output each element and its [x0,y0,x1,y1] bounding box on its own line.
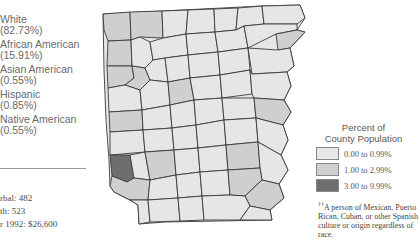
legend-swatch [316,179,339,192]
footnote-text: A person of Mexican, Puerto Rican, Cuban… [318,203,418,239]
legend-title-line: County Population [307,133,420,144]
stat-line: r 1992: $26,600 [0,218,57,231]
county [226,142,260,170]
race-pct: (0.85%) [0,100,100,111]
county [196,120,226,148]
county [142,105,172,130]
legend-label: 1.00 to 2.99% [344,165,392,175]
legend-label: 0.00 to 0.99% [344,149,392,159]
county [248,48,294,74]
stat-line: th: 523 [0,205,57,218]
county-map [100,0,340,240]
county [188,52,220,78]
race-item-african-american: African American(15.91%) [0,39,100,61]
county [130,11,163,40]
stat-line: rbal: 482 [0,192,57,205]
legend-item-high: 3.00 to 9.99% [316,179,420,192]
legend-item-low: 0.00 to 0.99% [316,147,420,160]
county [143,128,174,152]
race-item-native-american: Native American(0.55%) [0,114,100,136]
county [190,75,222,100]
county [130,200,150,224]
county [103,12,131,41]
legend-swatch [316,163,339,176]
legend-title-line: Percent of [307,122,420,133]
county [107,40,132,66]
county [176,172,202,198]
race-pct: (15.91%) [0,50,100,61]
stats-list: rbal: 482 th: 523 r 1992: $26,600 [0,192,57,231]
county [198,145,228,172]
county [170,100,196,128]
county [172,125,198,150]
race-item-asian-american: Asian American(0.55%) [0,64,100,86]
county [108,85,142,112]
race-breakdown-list: White(82.73%) African American(15.91%) A… [0,14,100,139]
race-pct: (0.55%) [0,125,100,136]
county [200,170,230,196]
county [214,8,238,32]
county [165,55,190,82]
legend-label: 3.00 to 9.99% [344,181,392,191]
race-pct: (82.73%) [0,25,100,36]
county [186,32,218,55]
county [250,70,291,100]
county [162,10,188,38]
legend-title: Percent of County Population [307,122,420,144]
footnote: ††A person of Mexican, Puerto Rican, Cub… [318,200,420,239]
county [109,110,143,132]
county [186,9,215,34]
county [224,118,258,145]
map-legend: Percent of County Population 0.00 to 0.9… [307,122,420,192]
race-pct: (0.55%) [0,75,100,86]
race-item-hispanic: Hispanic(0.85%) [0,89,100,111]
county [222,98,256,120]
county [276,30,305,50]
legend-swatch [316,147,339,160]
race-item-white: White(82.73%) [0,14,100,36]
county [148,198,180,222]
legend-item-mid: 1.00 to 2.99% [316,163,420,176]
divider [0,168,86,169]
county [174,148,200,175]
county [262,5,305,24]
county [178,196,204,221]
county [220,70,252,98]
county [110,130,145,155]
